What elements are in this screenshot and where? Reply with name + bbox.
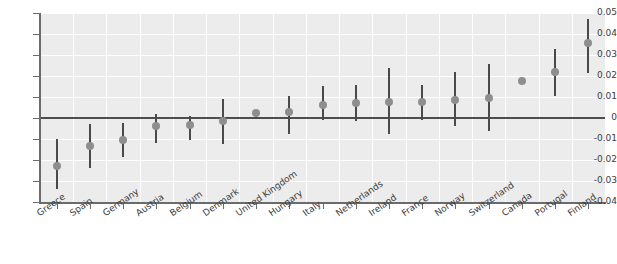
data-point xyxy=(186,121,194,129)
data-point xyxy=(219,117,227,125)
gridline-vertical xyxy=(439,13,440,202)
gridline-vertical xyxy=(273,13,274,202)
data-point xyxy=(451,96,459,104)
y-tick-mark xyxy=(33,202,39,203)
data-point xyxy=(352,99,360,107)
gridline-vertical xyxy=(173,13,174,202)
gridline-horizontal xyxy=(40,181,605,182)
y-tick-label: 0.03 xyxy=(585,49,617,59)
y-tick-mark xyxy=(33,181,39,182)
plot-area xyxy=(40,13,605,202)
data-point xyxy=(285,108,293,116)
y-tick-label: 0.02 xyxy=(585,70,617,80)
gridline-vertical xyxy=(339,13,340,202)
y-tick-label: 0.04 xyxy=(585,28,617,38)
gridline-horizontal xyxy=(40,160,605,161)
data-point xyxy=(485,94,493,102)
data-point xyxy=(418,98,426,106)
data-point xyxy=(53,162,61,170)
y-tick-mark xyxy=(33,55,39,56)
gridline-vertical xyxy=(472,13,473,202)
y-tick-mark xyxy=(33,160,39,161)
data-point xyxy=(119,136,127,144)
chart-figure: 0.050.040.030.020.010-0.01-0.02-0.03-0.0… xyxy=(0,0,617,264)
y-tick-mark xyxy=(33,118,39,119)
data-point xyxy=(518,77,526,85)
gridline-horizontal xyxy=(40,34,605,35)
data-point xyxy=(551,68,559,76)
data-point xyxy=(584,39,592,47)
data-point xyxy=(152,122,160,130)
gridline-vertical xyxy=(140,13,141,202)
gridline-vertical xyxy=(572,13,573,202)
y-tick-label: -0.01 xyxy=(585,133,617,143)
data-point xyxy=(86,142,94,150)
data-point xyxy=(252,109,260,117)
gridline-vertical xyxy=(73,13,74,202)
y-tick-label: 0.05 xyxy=(585,7,617,17)
gridline-vertical xyxy=(306,13,307,202)
data-point xyxy=(319,101,327,109)
gridline-vertical xyxy=(372,13,373,202)
y-tick-mark xyxy=(33,97,39,98)
gridline-vertical xyxy=(106,13,107,202)
gridline-vertical xyxy=(539,13,540,202)
y-tick-mark xyxy=(33,76,39,77)
gridline-vertical xyxy=(406,13,407,202)
y-tick-label: -0.03 xyxy=(585,175,617,185)
y-axis-line xyxy=(39,13,41,203)
y-tick-mark xyxy=(33,34,39,35)
y-tick-label: 0.01 xyxy=(585,91,617,101)
y-tick-mark xyxy=(33,13,39,14)
gridline-horizontal xyxy=(40,55,605,56)
gridline-vertical xyxy=(505,13,506,202)
gridline-vertical xyxy=(206,13,207,202)
gridline-horizontal xyxy=(40,13,605,14)
y-tick-mark xyxy=(33,139,39,140)
y-tick-label: 0 xyxy=(585,112,617,122)
gridline-vertical xyxy=(239,13,240,202)
data-point xyxy=(385,98,393,106)
y-tick-label: -0.02 xyxy=(585,154,617,164)
